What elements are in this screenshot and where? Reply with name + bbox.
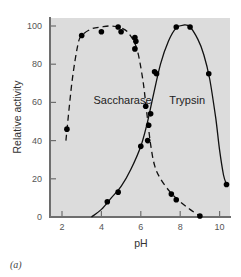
trypsin-data-point <box>115 189 121 195</box>
saccharase-data-point <box>64 126 70 132</box>
trypsin-data-point <box>206 71 212 77</box>
saccharase-data-point <box>79 33 85 39</box>
saccharase-data-point <box>118 29 124 35</box>
y-tick-label: 100 <box>27 21 42 31</box>
trypsin-label: Trypsin <box>169 94 205 106</box>
saccharase-data-point <box>173 197 179 203</box>
saccharase-data-point <box>197 213 203 219</box>
ph-activity-chart: 020406080100 246810 SaccharaseTrypsin Re… <box>0 0 241 277</box>
y-tick-label: 60 <box>32 97 42 107</box>
x-tick-label: 8 <box>178 222 183 232</box>
trypsin-data-point <box>148 111 154 117</box>
saccharase-data-point <box>132 46 138 52</box>
x-tick-label: 6 <box>138 222 143 232</box>
trypsin-data-point <box>105 199 111 205</box>
trypsin-data-point <box>187 24 193 30</box>
saccharase-data-point <box>146 123 152 129</box>
y-tick-label: 40 <box>32 136 42 146</box>
series-labels: SaccharaseTrypsin <box>94 94 206 106</box>
y-tick-label: 80 <box>32 59 42 69</box>
saccharase-data-point <box>99 29 105 35</box>
trypsin-data-point <box>138 144 144 150</box>
y-tick-label: 0 <box>37 212 42 222</box>
y-tick-label: 20 <box>32 174 42 184</box>
x-axis-label: pH <box>134 237 147 249</box>
x-tick-label: 4 <box>99 222 104 232</box>
saccharase-data-point <box>145 138 151 144</box>
panel-label: (a) <box>10 259 22 271</box>
x-tick-label: 10 <box>215 222 225 232</box>
saccharase-data-point <box>133 38 139 44</box>
trypsin-data-point <box>173 24 179 30</box>
y-axis-label: Relative activity <box>11 80 23 154</box>
x-tick-label: 2 <box>59 222 64 232</box>
saccharase-data-point <box>115 24 121 30</box>
trypsin-data-point <box>224 182 230 188</box>
saccharase-label: Saccharase <box>94 94 152 106</box>
saccharase-data-point <box>169 191 175 197</box>
trypsin-data-point <box>154 71 160 77</box>
